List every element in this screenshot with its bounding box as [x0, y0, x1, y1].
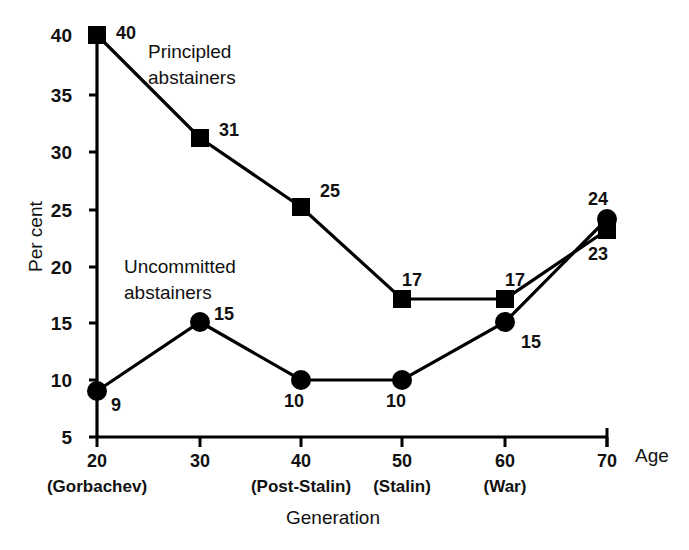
y-tick-label-10: 10 [30, 371, 72, 390]
age-axis-label: Age [635, 446, 669, 465]
data-label-uncommitted-70: 24 [588, 190, 608, 208]
series-uncommitted-line [97, 219, 607, 391]
data-label-uncommitted-60: 15 [521, 333, 541, 351]
generation-label-gorbachev: (Gorbachev) [37, 478, 157, 495]
data-label-principled-60: 17 [505, 271, 525, 289]
series-label-principled-line2: abstainers [148, 68, 236, 87]
data-label-principled-40: 25 [320, 182, 340, 200]
data-label-uncommitted-30: 15 [214, 305, 234, 323]
y-tick-label-40: 40 [30, 26, 72, 45]
y-tick-label-30: 30 [30, 143, 72, 162]
x-tick-label-40: 40 [281, 452, 321, 470]
series-label-principled-line1: Principled [148, 42, 231, 61]
y-tick-label-25: 25 [30, 201, 72, 220]
data-label-principled-20: 40 [116, 24, 136, 42]
y-tick-label-35: 35 [30, 86, 72, 105]
data-label-principled-50: 17 [402, 271, 422, 289]
series-label-uncommitted-line1: Uncommitted [124, 257, 236, 276]
generation-label-war: (War) [461, 478, 549, 495]
data-label-uncommitted-50: 10 [386, 392, 406, 410]
data-label-uncommitted-20: 9 [111, 396, 121, 414]
data-label-principled-30: 31 [219, 121, 239, 139]
x-axis-title: Generation [286, 508, 380, 527]
y-tick-label-20: 20 [30, 258, 72, 277]
y-tick-label-15: 15 [30, 314, 72, 333]
y-tick-label-5: 5 [30, 428, 72, 447]
generation-label-post-stalin: (Post-Stalin) [236, 478, 366, 495]
x-tick-label-20: 20 [77, 452, 117, 470]
x-tick-label-30: 30 [180, 452, 220, 470]
data-label-uncommitted-40: 10 [284, 392, 304, 410]
x-tick-label-70: 70 [587, 452, 627, 470]
x-tick-label-50: 50 [382, 452, 422, 470]
chart-figure: Per cent 40 35 30 25 20 15 10 5 20 30 40… [0, 0, 689, 550]
data-label-principled-70: 23 [588, 245, 608, 263]
series-label-uncommitted-line2: abstainers [124, 283, 212, 302]
generation-label-stalin: (Stalin) [348, 478, 456, 495]
series-uncommitted-markers [87, 209, 617, 401]
x-tick-label-60: 60 [485, 452, 525, 470]
